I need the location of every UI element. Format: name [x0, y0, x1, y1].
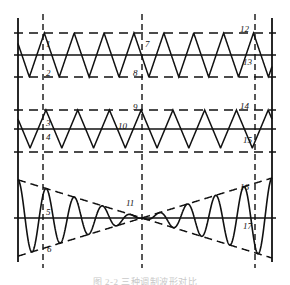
- point-label-12: 12: [240, 25, 249, 34]
- point-label-4: 4: [46, 133, 51, 142]
- point-label-8: 8: [133, 69, 138, 78]
- point-label-6: 6: [47, 245, 52, 254]
- point-label-7: 7: [145, 40, 150, 49]
- waveform-figure: 1234567891011121314151617 图 2-2 三种调制波形对比: [0, 0, 290, 285]
- point-label-16: 16: [240, 183, 249, 192]
- point-label-2: 2: [46, 69, 51, 78]
- point-label-17: 17: [243, 222, 252, 231]
- point-label-9: 9: [133, 103, 138, 112]
- point-label-3: 3: [46, 119, 51, 128]
- figure-caption: 图 2-2 三种调制波形对比: [0, 275, 290, 285]
- waveform-traces: [18, 33, 272, 254]
- point-label-14: 14: [240, 102, 249, 111]
- point-label-15: 15: [243, 136, 252, 145]
- point-label-13: 13: [243, 58, 252, 67]
- point-label-10: 10: [118, 122, 127, 131]
- point-label-11: 11: [126, 199, 134, 208]
- point-label-1: 1: [46, 40, 51, 49]
- panel-bottom-modulated-envelope-upper: [18, 178, 272, 218]
- point-label-5: 5: [46, 208, 51, 217]
